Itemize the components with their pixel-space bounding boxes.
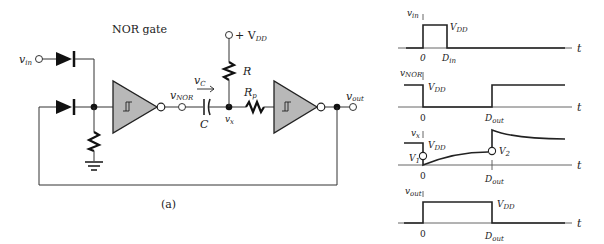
pulldown-resistor-icon — [89, 132, 99, 151]
v1-marker — [419, 152, 426, 159]
vdd-label: + VDD — [235, 29, 267, 43]
t-axis-label: t — [577, 159, 582, 172]
vdd-terminal — [226, 32, 233, 39]
vx-label: vx — [225, 114, 234, 126]
resistor-r-label: R — [242, 65, 251, 78]
v2-marker — [488, 147, 495, 154]
signal-label: vin — [407, 8, 419, 20]
ground-icon — [85, 162, 103, 170]
capacitor-label: C — [200, 118, 209, 131]
tick-dout: Dout — [484, 113, 504, 125]
signal-label: vout — [405, 186, 422, 198]
vout-terminal — [350, 104, 357, 111]
vin-label: vin — [19, 53, 32, 67]
vin-terminal — [36, 56, 43, 63]
signal-label: vx — [411, 128, 420, 140]
t-axis-label: t — [577, 217, 582, 230]
resistor-r-icon — [224, 62, 234, 80]
tick-zero: 0 — [420, 171, 426, 181]
resistor-rp-label: Rp — [243, 86, 257, 100]
circuit-title: NOR gate — [112, 23, 167, 36]
tick-dout: Dout — [484, 231, 504, 243]
v2-label: V2 — [499, 146, 511, 158]
tick-zero: 0 — [420, 229, 426, 239]
vdd-level-label: VDD — [428, 140, 446, 152]
figure: NOR gate vin — [0, 0, 604, 244]
waveform-vin: t vin VDD 0 Din — [398, 8, 582, 65]
schmitt-inverter-1-icon — [113, 81, 165, 133]
feedback-diode-icon — [56, 99, 74, 115]
vnor-label: vNOR — [170, 89, 194, 102]
vdd-level-label: VDD — [428, 82, 446, 94]
resistor-rp-icon — [246, 102, 264, 112]
vdd-level-label: VDD — [497, 199, 515, 211]
waveform-vnor: t vNOR VDD 0 Dout — [398, 68, 582, 125]
schmitt-inverter-2-icon — [274, 81, 325, 133]
tick-dout: Dout — [484, 174, 504, 186]
v1-label: V1 — [409, 153, 420, 165]
tick-din: Din — [441, 53, 456, 65]
waveform-vout: t vout VDD 0 Dout — [398, 186, 582, 243]
vnor-terminal — [179, 104, 186, 111]
circuit-schematic: NOR gate vin — [19, 23, 364, 211]
waveform-vx: t vx VDD V1 V2 0 Dout — [398, 128, 582, 186]
t-axis-label: t — [577, 101, 582, 114]
tick-zero: 0 — [420, 53, 426, 63]
vout-label: vout — [346, 90, 364, 103]
t-axis-label: t — [577, 42, 582, 55]
vdd-level-label: VDD — [450, 22, 468, 34]
signal-label: vNOR — [400, 68, 423, 79]
input-diode-icon — [56, 51, 74, 67]
vc-label: vC — [194, 74, 206, 88]
figure-caption: (a) — [161, 198, 176, 211]
tick-zero: 0 — [420, 113, 426, 123]
